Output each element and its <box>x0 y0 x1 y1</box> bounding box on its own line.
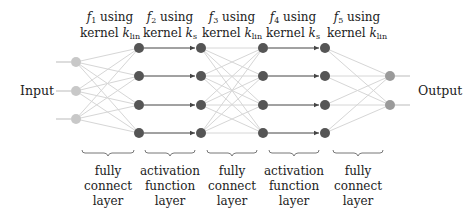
svg-text:fully: fully <box>345 164 372 178</box>
svg-text:fully: fully <box>95 164 122 178</box>
dense-edges-layer5 <box>325 48 390 133</box>
svg-text:activation: activation <box>264 164 324 178</box>
layer-braces <box>82 150 383 156</box>
output-label: Output <box>418 83 462 98</box>
hidden-node <box>134 71 144 81</box>
svg-text:kernel ks: kernel ks <box>266 26 320 41</box>
layer-label-2: activation function layer <box>140 164 200 208</box>
hidden-node <box>196 43 206 53</box>
svg-text:f1 using: f1 using <box>86 10 134 25</box>
svg-text:f3 using: f3 using <box>208 10 256 25</box>
function-label-f3: f3 using kernel klin <box>202 10 262 41</box>
svg-text:layer: layer <box>217 194 248 208</box>
input-node <box>71 86 81 96</box>
brace-icon <box>269 150 319 156</box>
svg-text:f4 using: f4 using <box>269 10 317 25</box>
hidden-node <box>134 128 144 138</box>
hidden-node <box>196 128 206 138</box>
hidden-node <box>320 128 330 138</box>
svg-text:layer: layer <box>279 194 310 208</box>
function-label-f2: f2 using kernel ks <box>143 10 197 41</box>
hidden-node <box>258 100 268 110</box>
svg-text:kernel klin: kernel klin <box>80 26 140 41</box>
input-node <box>71 114 81 124</box>
layer-label-4: activation function layer <box>264 164 324 208</box>
svg-text:layer: layer <box>343 194 374 208</box>
svg-text:kernel klin: kernel klin <box>202 26 262 41</box>
layer-label-5: fully connect layer <box>334 164 382 208</box>
layer-label-3: fully connect layer <box>208 164 256 208</box>
brace-icon <box>333 150 383 156</box>
brace-icon <box>207 150 257 156</box>
svg-text:layer: layer <box>155 194 186 208</box>
svg-text:kernel ks: kernel ks <box>143 26 197 41</box>
hidden-node <box>320 43 330 53</box>
svg-text:kernel klin: kernel klin <box>327 26 387 41</box>
svg-text:connect: connect <box>208 179 256 193</box>
layer-label-1: fully connect layer <box>84 164 132 208</box>
function-label-f1: f1 using kernel klin <box>80 10 140 41</box>
svg-text:activation: activation <box>140 164 200 178</box>
hidden-node <box>320 100 330 110</box>
svg-text:function: function <box>145 179 196 193</box>
activation-arrows-layer2 <box>144 48 195 133</box>
hidden-node <box>258 128 268 138</box>
dense-edges-layer1 <box>76 48 139 133</box>
hidden-node <box>258 43 268 53</box>
output-nodes <box>385 71 395 110</box>
svg-text:function: function <box>269 179 320 193</box>
hidden-node <box>196 100 206 110</box>
input-nodes <box>71 57 81 124</box>
input-label: Input <box>20 83 54 98</box>
svg-text:layer: layer <box>93 194 124 208</box>
svg-text:fully: fully <box>219 164 246 178</box>
hidden-node <box>134 100 144 110</box>
output-node <box>385 71 395 81</box>
function-label-f5: f5 using kernel klin <box>327 10 387 41</box>
hidden-node <box>258 71 268 81</box>
network-diagram: f1 using kernel klin f2 using kernel ks … <box>0 0 476 219</box>
hidden-node <box>320 71 330 81</box>
activation-arrows-layer4 <box>268 48 319 133</box>
function-label-f4: f4 using kernel ks <box>266 10 320 41</box>
svg-text:f2 using: f2 using <box>146 10 194 25</box>
svg-text:f5 using: f5 using <box>333 10 381 25</box>
svg-text:connect: connect <box>84 179 132 193</box>
brace-icon <box>145 150 195 156</box>
input-node <box>71 57 81 67</box>
hidden-node <box>134 43 144 53</box>
function-labels: f1 using kernel klin f2 using kernel ks … <box>80 10 387 41</box>
output-node <box>385 100 395 110</box>
dense-edges-layer3 <box>201 48 263 133</box>
svg-text:connect: connect <box>334 179 382 193</box>
hidden-node <box>196 71 206 81</box>
brace-icon <box>82 150 134 156</box>
